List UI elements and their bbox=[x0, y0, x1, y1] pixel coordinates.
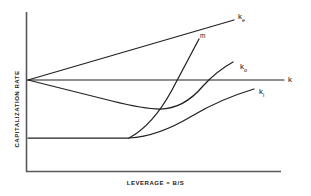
y-axis-title: CAPITALIZATION RATE bbox=[14, 49, 20, 169]
series-line-m bbox=[129, 39, 199, 138]
series-line-ke bbox=[28, 20, 234, 80]
series-label-m-base: m bbox=[200, 32, 205, 39]
series-label-k-base: k bbox=[288, 75, 292, 84]
series-label-k: k bbox=[288, 76, 292, 84]
series-line-ko bbox=[28, 62, 233, 109]
series-label-ko-sub: o bbox=[244, 67, 247, 73]
x-axis-title: LEVERAGE = B/S bbox=[0, 180, 311, 186]
series-label-ke-sub: e bbox=[242, 17, 245, 23]
series-label-ki: ki bbox=[259, 88, 264, 98]
series-label-ko: ko bbox=[240, 63, 247, 73]
series-label-m: m bbox=[200, 33, 205, 40]
series-label-ke: ke bbox=[238, 13, 245, 23]
capitalization-rate-chart: ke ko ki k m LEVERAGE = B/S CAPITALIZATI… bbox=[0, 0, 311, 196]
chart-plot-area bbox=[0, 0, 311, 196]
series-label-ki-sub: i bbox=[263, 92, 264, 98]
